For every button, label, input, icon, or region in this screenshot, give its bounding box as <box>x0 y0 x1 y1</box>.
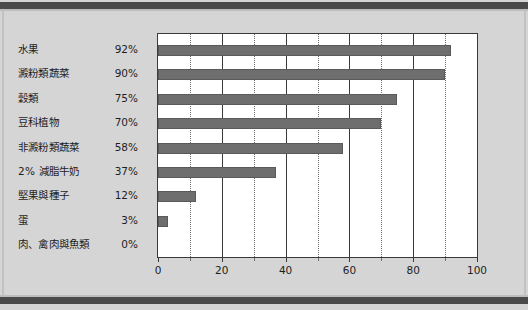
category-value: 58% <box>96 140 138 154</box>
gridline-major-80 <box>413 34 414 257</box>
x-tick-minor-50 <box>318 258 319 261</box>
category-value: 37% <box>96 164 138 178</box>
bar-chart-figure: 水果92%澱粉類蔬菜90%穀類75%豆科植物70%非澱粉類蔬菜58%2% 減脂牛… <box>0 0 528 310</box>
x-tick-minor-90 <box>445 258 446 261</box>
bar <box>158 69 445 80</box>
category-row: 澱粉類蔬菜90% <box>0 66 157 80</box>
x-tick-20 <box>222 258 223 262</box>
category-label: 堅果與種子 <box>18 188 69 202</box>
gridline-major-60 <box>349 34 350 257</box>
top-rule <box>0 2 528 9</box>
x-tick-label: 100 <box>457 264 497 276</box>
x-tick-label: 60 <box>329 264 369 276</box>
category-row: 蛋3% <box>0 213 157 227</box>
category-row: 堅果與種子12% <box>0 188 157 202</box>
x-tick-minor-70 <box>381 258 382 261</box>
category-label: 豆科植物 <box>18 115 59 129</box>
x-tick-80 <box>413 258 414 262</box>
bar <box>158 143 343 154</box>
bar <box>158 191 196 202</box>
x-tick-minor-10 <box>190 258 191 261</box>
category-label: 澱粉類蔬菜 <box>18 66 69 80</box>
category-row: 穀類75% <box>0 91 157 105</box>
x-tick-label: 0 <box>138 264 178 276</box>
bar <box>158 118 381 129</box>
category-value: 70% <box>96 115 138 129</box>
category-label: 蛋 <box>18 213 28 227</box>
plot-area <box>157 33 478 258</box>
top-rule-shadow <box>0 9 528 11</box>
gridline-minor-90 <box>445 34 446 257</box>
x-axis: 020406080100 <box>157 258 478 282</box>
bar <box>158 216 168 227</box>
category-label: 非澱粉類蔬菜 <box>18 140 79 154</box>
category-row: 豆科植物70% <box>0 115 157 129</box>
x-tick-label: 20 <box>202 264 242 276</box>
x-tick-minor-30 <box>254 258 255 261</box>
x-tick-label: 40 <box>266 264 306 276</box>
category-row: 肉、禽肉與魚類0% <box>0 237 157 251</box>
category-row: 2% 減脂牛奶37% <box>0 164 157 178</box>
x-tick-label: 80 <box>393 264 433 276</box>
bar <box>158 167 276 178</box>
bar <box>158 94 397 105</box>
category-row: 非澱粉類蔬菜58% <box>0 140 157 154</box>
x-tick-0 <box>158 258 159 262</box>
category-label: 水果 <box>18 42 38 56</box>
plot-inner <box>158 34 477 257</box>
category-label: 穀類 <box>18 91 38 105</box>
page-edge-right <box>524 9 526 297</box>
category-row: 水果92% <box>0 42 157 56</box>
category-label: 肉、禽肉與魚類 <box>18 237 89 251</box>
x-tick-40 <box>286 258 287 262</box>
category-label-column: 水果92%澱粉類蔬菜90%穀類75%豆科植物70%非澱粉類蔬菜58%2% 減脂牛… <box>0 33 157 258</box>
category-value: 0% <box>96 237 138 251</box>
bottom-rule <box>0 297 528 304</box>
category-value: 12% <box>96 188 138 202</box>
category-value: 75% <box>96 91 138 105</box>
category-value: 90% <box>96 66 138 80</box>
category-label: 2% 減脂牛奶 <box>18 164 79 178</box>
category-value: 3% <box>96 213 138 227</box>
x-tick-100 <box>477 258 478 262</box>
x-tick-60 <box>349 258 350 262</box>
category-value: 92% <box>96 42 138 56</box>
gridline-minor-70 <box>381 34 382 257</box>
bar <box>158 45 451 56</box>
